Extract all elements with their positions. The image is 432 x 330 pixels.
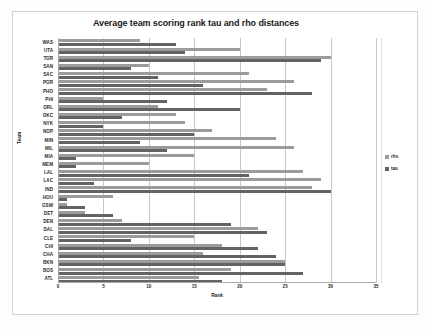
y-tick-label: CLE: [13, 236, 53, 241]
y-tick-label: MIA: [13, 154, 53, 159]
bar-tau: [58, 174, 249, 177]
y-tick-label: WAS: [13, 40, 53, 45]
bar-group: [58, 113, 376, 121]
bar-tau: [58, 272, 303, 275]
y-tick-label: NOP: [13, 129, 53, 134]
bar-group: [58, 64, 376, 72]
x-tick-label: 15: [192, 284, 197, 289]
bar-tau: [58, 141, 140, 144]
bar-tau: [58, 51, 185, 54]
bar-tau: [58, 247, 258, 250]
bar-group: [58, 170, 376, 178]
legend-item: rho: [385, 154, 431, 159]
bar-group: [58, 178, 376, 186]
y-tick-label: POR: [13, 80, 53, 85]
bar-tau: [58, 255, 276, 258]
bar-tau: [58, 92, 312, 95]
bar-tau: [58, 190, 331, 193]
bar-tau: [58, 157, 76, 160]
y-tick-label: DAL: [13, 227, 53, 232]
y-tick-label: MEM: [13, 162, 53, 167]
x-tick-label: 20: [237, 284, 242, 289]
y-axis-tick-labels: ATLBOSBKNCHACHICLEDALDENDETGSWHOUINDLACL…: [13, 38, 56, 283]
y-tick-label: TOR: [13, 56, 53, 61]
bar-group: [58, 211, 376, 219]
x-tick-label: 30: [328, 284, 333, 289]
y-tick-label: LAL: [13, 170, 53, 175]
x-tick-label: 10: [146, 284, 151, 289]
chart-frame: Average team scoring rank tau and rho di…: [12, 11, 418, 315]
bar-tau: [58, 206, 85, 209]
y-tick-label: OKC: [13, 113, 53, 118]
y-tick-label: DET: [13, 211, 53, 216]
bar-tau: [58, 59, 321, 62]
bar-group: [58, 252, 376, 260]
bar-tau: [58, 239, 131, 242]
bar-group: [58, 260, 376, 268]
y-tick-label: UTA: [13, 48, 53, 53]
bar-group: [58, 105, 376, 113]
y-tick-label: PHO: [13, 89, 53, 94]
y-axis-line: [58, 38, 59, 283]
y-tick-label: HOU: [13, 195, 53, 200]
bar-tau: [58, 165, 76, 168]
bar-tau: [58, 198, 67, 201]
bar-group: [58, 137, 376, 145]
bar-group: [58, 162, 376, 170]
y-tick-label: ATL: [13, 276, 53, 281]
bar-group: [58, 244, 376, 252]
bar-tau: [58, 43, 176, 46]
y-tick-label: IND: [13, 187, 53, 192]
bar-group: [58, 195, 376, 203]
y-tick-label: PHI: [13, 97, 53, 102]
legend-swatch-icon: [385, 167, 389, 171]
y-tick-label: SAN: [13, 64, 53, 69]
y-tick-label: CHI: [13, 244, 53, 249]
bar-group: [58, 72, 376, 80]
bar-tau: [58, 108, 240, 111]
plot-area: [58, 38, 376, 283]
legend-swatch-icon: [385, 155, 389, 159]
legend-divider: [381, 38, 382, 283]
bar-tau: [58, 214, 113, 217]
bar-tau: [58, 182, 94, 185]
bar-group: [58, 80, 376, 88]
x-tick-label: 0: [57, 284, 60, 289]
y-tick-label: MIL: [13, 146, 53, 151]
bar-group: [58, 268, 376, 276]
bar-rho: [58, 154, 194, 157]
legend-item: tau: [385, 166, 431, 171]
bar-group: [58, 39, 376, 47]
bar-group: [58, 121, 376, 129]
bar-group: [58, 154, 376, 162]
legend-label: tau: [391, 166, 398, 171]
legend-label: rho: [391, 154, 398, 159]
bar-tau: [58, 125, 103, 128]
bar-group: [58, 146, 376, 154]
bar-tau: [58, 149, 167, 152]
x-tick-label: 25: [283, 284, 288, 289]
y-tick-label: BKN: [13, 260, 53, 265]
bar-group: [58, 48, 376, 56]
y-tick-label: SAC: [13, 72, 53, 77]
y-tick-label: GSW: [13, 203, 53, 208]
y-tick-label: NYK: [13, 121, 53, 126]
bar-group: [58, 129, 376, 137]
bar-group: [58, 203, 376, 211]
bar-tau: [58, 133, 194, 136]
bar-group: [58, 235, 376, 243]
bar-tau: [58, 263, 285, 266]
chart-title: Average team scoring rank tau and rho di…: [13, 18, 379, 28]
x-axis-title: Rank: [58, 293, 376, 298]
bar-tau: [58, 100, 167, 103]
bar-group: [58, 186, 376, 194]
bar-group: [58, 88, 376, 96]
y-tick-label: LAC: [13, 178, 53, 183]
x-axis-line: [58, 282, 376, 283]
bar-group: [58, 219, 376, 227]
chart-screenshot: Average team scoring rank tau and rho di…: [0, 0, 432, 330]
bar-group: [58, 227, 376, 235]
y-tick-label: DEN: [13, 219, 53, 224]
gridline: [376, 38, 377, 283]
bar-tau: [58, 223, 231, 226]
